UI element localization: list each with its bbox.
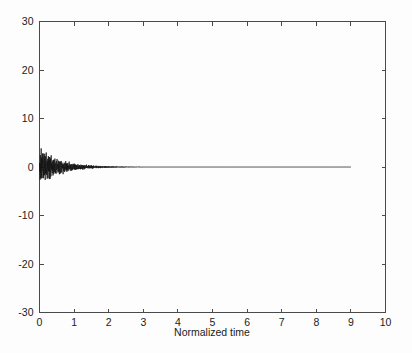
y-tick-label--10: -10 bbox=[18, 209, 33, 221]
x-axis-title: Normalized time bbox=[174, 326, 250, 338]
x-tick-label-8: 8 bbox=[313, 316, 319, 328]
x-tick-label-1: 1 bbox=[71, 316, 77, 328]
y-tick-label--20: -20 bbox=[18, 258, 33, 270]
chart-svg: 012345678910 -30-20-100102030 Normalized… bbox=[0, 0, 412, 353]
figure-page: 012345678910 -30-20-100102030 Normalized… bbox=[0, 0, 412, 353]
x-tick-label-3: 3 bbox=[140, 316, 146, 328]
y-tick-label--30: -30 bbox=[18, 306, 33, 318]
y-tick-label-0: 0 bbox=[28, 161, 34, 173]
x-tick-label-9: 9 bbox=[348, 316, 354, 328]
y-tick-label-30: 30 bbox=[22, 15, 34, 27]
figure-background bbox=[0, 0, 412, 353]
x-tick-label-10: 10 bbox=[380, 316, 392, 328]
x-tick-label-2: 2 bbox=[106, 316, 112, 328]
y-tick-label-20: 20 bbox=[22, 64, 34, 76]
x-tick-label-7: 7 bbox=[279, 316, 285, 328]
x-tick-label-0: 0 bbox=[37, 316, 43, 328]
y-tick-label-10: 10 bbox=[22, 112, 34, 124]
chart-figure: 012345678910 -30-20-100102030 Normalized… bbox=[0, 0, 412, 353]
